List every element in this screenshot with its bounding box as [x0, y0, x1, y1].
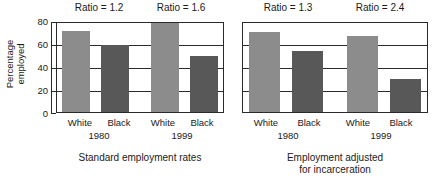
bar-white-1980-left — [62, 31, 90, 112]
panel-caption-right-line2: for incarceration — [287, 164, 383, 176]
bar-black-1999-left — [190, 56, 218, 112]
bar-slot-white-1999-left — [146, 23, 185, 112]
ratio-annotation-1980-right: Ratio = 1.3 — [264, 2, 313, 14]
y-tick-label-60: 60 — [37, 40, 48, 50]
bar-black-1980-right — [292, 51, 323, 112]
plot-area-left — [57, 23, 223, 112]
bar-group-container-right — [243, 23, 427, 112]
y-tick-mark-0 — [51, 113, 56, 114]
x-tick-white-1999-right: White — [346, 117, 370, 128]
panel-standard-employment — [56, 22, 224, 113]
y-axis-label-line1: Percentage — [4, 40, 15, 89]
x-group-1980-right: 1980 — [277, 130, 298, 141]
ratio-annotation-1980-left: Ratio = 1.2 — [75, 2, 124, 14]
x-tick-black-1999-left: Black — [190, 117, 213, 128]
panel-caption-right-line1: Employment adjusted — [287, 152, 383, 164]
bar-slot-black-1999-left — [184, 23, 223, 112]
x-tick-black-1980-left: Black — [107, 117, 130, 128]
bar-slot-black-1999-right — [384, 23, 427, 112]
bar-slot-black-1980-right — [286, 23, 329, 112]
y-axis-label: Percentage employed — [0, 14, 30, 114]
y-axis-label-line2: employed — [15, 40, 26, 89]
ratio-annotation-1999-right: Ratio = 2.4 — [356, 2, 405, 14]
y-tick-label-0: 0 — [43, 109, 48, 119]
x-tick-white-1980-left: White — [68, 117, 92, 128]
panel-caption-right: Employment adjusted for incarceration — [287, 152, 383, 175]
bar-white-1980-right — [249, 32, 280, 112]
plot-area-right — [243, 23, 427, 112]
x-group-1999-left: 1999 — [171, 130, 192, 141]
x-group-1999-right: 1999 — [370, 130, 391, 141]
ratio-annotation-1999-left: Ratio = 1.6 — [157, 2, 206, 14]
panel-caption-left-line1: Standard employment rates — [79, 152, 202, 164]
y-tick-label-20: 20 — [37, 86, 48, 96]
x-tick-white-1980-right: White — [254, 117, 278, 128]
bar-white-1999-right — [347, 36, 378, 112]
bar-slot-white-1980-left — [57, 23, 96, 112]
y-axis-tick-labels: 80 60 40 20 0 — [28, 16, 48, 116]
x-tick-white-1999-left: White — [151, 117, 175, 128]
bar-group-container-left — [57, 23, 223, 112]
panel-caption-left: Standard employment rates — [79, 152, 202, 164]
group-separator-left — [134, 23, 146, 112]
x-group-1980-left: 1980 — [88, 130, 109, 141]
y-tick-label-40: 40 — [37, 63, 48, 73]
bar-slot-black-1980-left — [96, 23, 135, 112]
group-separator-right — [329, 23, 342, 112]
panel-adjusted-employment — [242, 22, 428, 113]
bar-black-1999-right — [390, 79, 421, 112]
y-tick-label-80: 80 — [37, 17, 48, 27]
x-tick-black-1980-right: Black — [297, 117, 320, 128]
bar-black-1980-left — [101, 45, 129, 112]
x-tick-black-1999-right: Black — [389, 117, 412, 128]
bar-slot-white-1980-right — [243, 23, 286, 112]
bar-white-1999-left — [151, 23, 179, 112]
chart-figure: Percentage employed 80 60 40 20 0 — [0, 0, 433, 182]
bar-slot-white-1999-right — [341, 23, 384, 112]
